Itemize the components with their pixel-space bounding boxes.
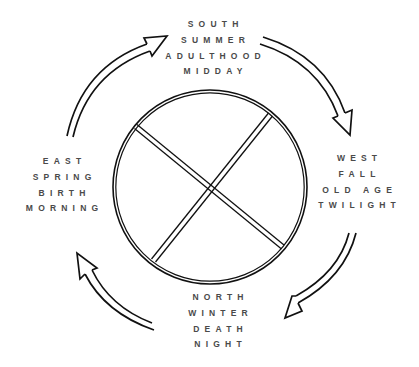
life-stage-label: DEATH (183, 322, 253, 338)
curved-arrow-icon (285, 233, 356, 318)
time-of-day-label: TWILIGHT (313, 198, 401, 214)
curved-arrow-icon (260, 37, 352, 135)
label-east: EAST SPRING BIRTH MORNING (21, 154, 104, 217)
label-south: SOUTH SUMMER ADULTHOOD MIDDAY (160, 17, 266, 80)
label-north: NORTH WINTER DEATH NIGHT (183, 290, 253, 353)
life-stage-label: BIRTH (21, 186, 104, 202)
curved-arrow-icon (77, 253, 154, 330)
curved-arrow-icon (67, 36, 167, 137)
time-of-day-label: MIDDAY (160, 64, 266, 80)
direction-label: NORTH (183, 290, 253, 306)
label-west: WEST FALL OLD AGE TWILIGHT (313, 151, 401, 214)
direction-label: SOUTH (160, 17, 266, 33)
time-of-day-label: MORNING (21, 201, 104, 217)
direction-label: WEST (313, 151, 401, 167)
season-label: SPRING (21, 170, 104, 186)
life-stage-label: ADULTHOOD (160, 49, 266, 65)
season-label: FALL (313, 167, 401, 183)
life-stage-label: OLD AGE (313, 183, 401, 199)
season-label: SUMMER (160, 33, 266, 49)
cross-bar-ascending (152, 113, 273, 262)
time-of-day-label: NIGHT (183, 337, 253, 353)
quartered-circle-icon (113, 90, 307, 284)
direction-label: EAST (21, 154, 104, 170)
season-label: WINTER (183, 306, 253, 322)
